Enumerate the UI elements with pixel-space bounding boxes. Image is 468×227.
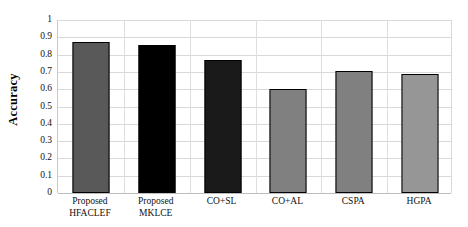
y-axis-tick-label: 0.5 — [40, 102, 52, 112]
y-axis-tick-label: 0.7 — [40, 67, 52, 77]
x-axis-category-label: CO+SL — [189, 196, 255, 208]
bar-slot — [321, 20, 387, 193]
bar — [138, 45, 175, 193]
y-axis-title-label: Accuracy — [6, 73, 21, 125]
bar-slot — [387, 20, 453, 193]
x-axis-category-labels: ProposedHFACLEFProposedMKLCECO+SLCO+ALCS… — [57, 196, 452, 227]
y-axis-tick-label: 0.2 — [40, 154, 52, 164]
bar-slot — [256, 20, 322, 193]
bar — [270, 89, 307, 193]
bar-slot — [124, 20, 190, 193]
y-axis-tick-label: 0.8 — [40, 50, 52, 60]
y-axis-tick-label: 0.3 — [40, 136, 52, 146]
bar-slot — [58, 20, 124, 193]
bar — [336, 71, 373, 193]
y-axis-tick-label: 0.4 — [40, 119, 52, 129]
y-axis-tick-label: 1 — [47, 15, 52, 25]
y-axis-tick-labels: 10.90.80.70.60.50.40.30.20.10 — [22, 20, 55, 193]
bar-slot — [190, 20, 256, 193]
bar — [72, 42, 109, 193]
y-axis-tick-label: 0.1 — [40, 171, 52, 181]
y-axis-tick-label: 0 — [47, 188, 52, 198]
y-axis-tick-label: 0.6 — [40, 84, 52, 94]
axis-baseline — [58, 193, 451, 194]
bar — [204, 60, 241, 193]
plot-area — [57, 20, 452, 193]
bars-layer — [58, 20, 451, 193]
y-axis-tick-label: 0.9 — [40, 33, 52, 43]
bar — [402, 74, 439, 193]
x-axis-category-label: CSPA — [320, 196, 386, 208]
bar-chart: Accuracy 10.90.80.70.60.50.40.30.20.10 P… — [0, 0, 468, 227]
x-axis-category-label: HGPA — [386, 196, 452, 208]
x-axis-category-label: ProposedMKLCE — [123, 196, 189, 219]
x-axis-category-label: ProposedHFACLEF — [57, 196, 123, 219]
x-axis-category-label: CO+AL — [255, 196, 321, 208]
